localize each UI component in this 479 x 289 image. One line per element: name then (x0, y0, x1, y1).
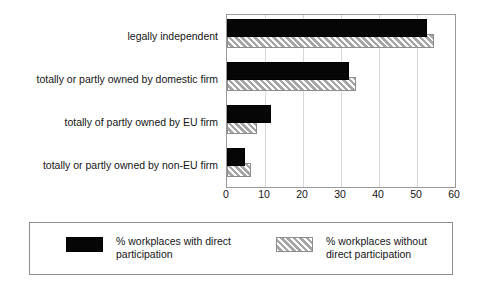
legend-label: % workplaces without direct participatio… (326, 235, 452, 261)
x-axis: 0 10 20 30 40 50 60 (226, 188, 454, 204)
bar-chart: legally independent totally or partly ow… (0, 0, 479, 289)
plot-inner (227, 15, 455, 187)
bar-group (227, 19, 455, 55)
category-label: totally or partly owned by domestic firm (37, 73, 218, 85)
bar-with-participation (227, 19, 427, 37)
x-tick-label: 50 (410, 188, 422, 200)
category-label: legally independent (128, 30, 219, 42)
legend-label: % workplaces with direct participation (116, 235, 266, 261)
category-axis-labels: legally independent totally or partly ow… (0, 14, 222, 186)
category-label: totally of partly owned by EU firm (65, 116, 218, 128)
plot-area (226, 14, 456, 188)
bar-with-participation (227, 148, 245, 166)
x-tick-label: 0 (223, 188, 229, 200)
legend-entry-without-participation: % workplaces without direct participatio… (276, 235, 452, 261)
legend-entry-with-participation: % workplaces with direct participation (66, 235, 266, 261)
x-tick-label: 30 (334, 188, 346, 200)
x-tick-label: 20 (296, 188, 308, 200)
black-swatch-icon (66, 237, 103, 252)
category-label: totally or partly owned by non-EU firm (43, 159, 218, 171)
bar-group (227, 62, 455, 98)
x-tick-label: 60 (448, 188, 460, 200)
bar-with-participation (227, 62, 349, 80)
legend: % workplaces with direct participation %… (29, 222, 453, 275)
bar-group (227, 105, 455, 141)
x-tick-label: 40 (372, 188, 384, 200)
hatched-swatch-icon (276, 237, 313, 252)
x-tick-label: 10 (258, 188, 270, 200)
bar-with-participation (227, 105, 271, 123)
bar-group (227, 148, 455, 184)
